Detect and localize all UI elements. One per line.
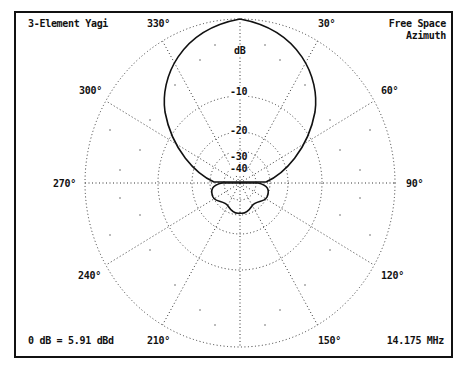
angle-label-210: 210° [147, 335, 170, 346]
angle-label-330: 330° [147, 18, 170, 29]
grid-spoke-240 [106, 183, 240, 265]
angle-label-90: 90° [406, 178, 423, 189]
grid-spoke-60 [240, 101, 374, 183]
reference-gain-label: 0 dB = 5.91 dBd [28, 335, 114, 346]
angle-label-270: 270° [53, 178, 76, 189]
grid-spoke-210 [163, 183, 241, 325]
db-label-40: -40 [230, 163, 247, 174]
db-label-10: -10 [230, 86, 247, 97]
mode-label-line2: Azimuth [406, 30, 446, 41]
db-label-30: -30 [230, 151, 247, 162]
chart-title: 3-Element Yagi [28, 18, 108, 29]
angle-label-120: 120° [381, 270, 404, 281]
angle-label-30: 30° [318, 18, 335, 29]
angle-label-150: 150° [318, 335, 341, 346]
db-unit-label: dB [234, 45, 245, 56]
angle-label-60: 60° [381, 85, 398, 96]
frequency-label: 14.175 MHz [387, 335, 444, 346]
mode-label-line1: Free Space [389, 18, 446, 29]
angle-label-300: 300° [79, 85, 102, 96]
grid-spoke-120 [240, 183, 374, 265]
db-label-20: -20 [230, 125, 247, 136]
grid-spoke-150 [240, 183, 318, 325]
grid-spoke-300 [106, 101, 240, 183]
angle-label-240: 240° [78, 270, 101, 281]
